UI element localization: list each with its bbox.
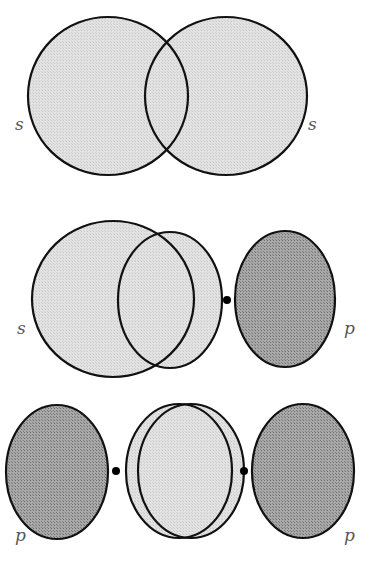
orbital-label-p: p <box>344 320 355 337</box>
panel-s-p-overlap <box>32 221 335 377</box>
panel-p-p-overlap <box>6 404 354 539</box>
orbital-label-p: p <box>344 527 355 544</box>
panel-s-s-overlap <box>28 17 307 175</box>
orbital-label-s: s <box>308 116 317 133</box>
orbital-label-s: s <box>15 116 24 133</box>
orbital-label-s: s <box>17 320 26 337</box>
nucleus-dot <box>240 467 248 475</box>
nucleus-dot <box>112 467 120 475</box>
orbital-overlap-diagram <box>0 0 381 571</box>
nucleus-dot <box>223 296 231 304</box>
orbital-label-p: p <box>15 527 26 544</box>
